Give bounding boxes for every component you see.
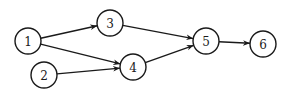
node-label: 3 — [106, 17, 114, 31]
edge-3-to-5 — [123, 25, 193, 38]
edge-4-to-5 — [145, 45, 194, 62]
edge-1-to-3 — [41, 26, 98, 38]
node-label: 6 — [259, 38, 267, 52]
edge-1-to-4 — [41, 44, 121, 64]
edge-2-to-4 — [57, 68, 120, 74]
node-6: 6 — [250, 31, 276, 57]
nodes-layer: 123456 — [15, 10, 276, 88]
node-1: 1 — [15, 28, 41, 54]
node-5: 5 — [193, 28, 219, 54]
graph-canvas: 123456 — [0, 0, 292, 92]
node-2: 2 — [31, 62, 57, 88]
node-label: 4 — [129, 61, 137, 75]
node-label: 5 — [202, 35, 210, 49]
node-4: 4 — [120, 54, 146, 80]
node-label: 1 — [24, 35, 32, 49]
node-3: 3 — [97, 10, 123, 36]
edge-5-to-6 — [219, 42, 250, 44]
node-label: 2 — [40, 69, 48, 83]
